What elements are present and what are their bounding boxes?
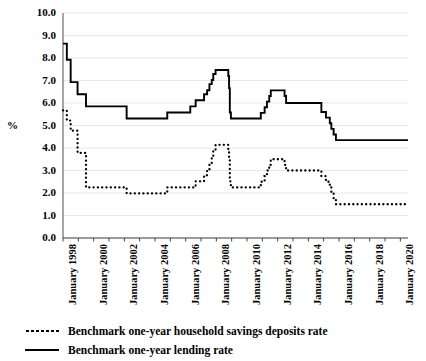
x-axis-tick-label: January 2002 — [128, 244, 139, 305]
y-axis-tick-label: 4.0 — [22, 141, 56, 153]
y-axis-tick-label: 3.0 — [22, 164, 56, 176]
gridlines — [63, 13, 408, 238]
x-axis-tick-label: January 1998 — [67, 244, 78, 305]
legend-label: Benchmark one-year household savings dep… — [68, 325, 328, 337]
x-axis-tick-label: January 2020 — [404, 244, 415, 305]
x-axis-tick-label: January 2014 — [312, 244, 323, 305]
x-axis-tick-label: January 2008 — [220, 244, 231, 305]
chart-plot-area — [0, 0, 426, 361]
x-axis-tick-label: January 2000 — [98, 244, 109, 305]
y-axis-tick-label: 1.0 — [22, 209, 56, 221]
y-axis-tick-label: 0.0 — [22, 231, 56, 243]
y-axis-tick-label: 8.0 — [22, 51, 56, 63]
y-axis-tick-label: 5.0 — [22, 119, 56, 131]
data-series-group — [63, 44, 408, 205]
x-axis-tick-label: January 2006 — [190, 244, 201, 305]
legend-dotted-line-icon — [25, 326, 59, 336]
y-axis-tick-label: 2.0 — [22, 186, 56, 198]
x-axis-tick-label: January 2010 — [251, 244, 262, 305]
y-axis-tick-label: 7.0 — [22, 74, 56, 86]
legend-solid-line-icon — [25, 345, 59, 355]
x-axis-tick-label: January 2012 — [282, 244, 293, 305]
series-line-savings-rate — [63, 110, 408, 204]
x-axis-tick-label: January 2004 — [159, 244, 170, 305]
x-axis-tick-label: January 2018 — [374, 244, 385, 305]
y-axis-tick-label: 10.0 — [22, 6, 56, 18]
legend-item[interactable]: Benchmark one-year lending rate — [25, 344, 233, 356]
y-axis-title: % — [7, 119, 18, 131]
y-axis-tick-label: 9.0 — [22, 29, 56, 41]
x-axis-tick-label: January 2016 — [343, 244, 354, 305]
y-axis-tick-label: 6.0 — [22, 96, 56, 108]
chart-container: 10.09.08.07.06.05.04.03.02.01.00.0%Janua… — [0, 0, 426, 361]
legend-item[interactable]: Benchmark one-year household savings dep… — [25, 325, 328, 337]
legend-label: Benchmark one-year lending rate — [68, 344, 233, 356]
